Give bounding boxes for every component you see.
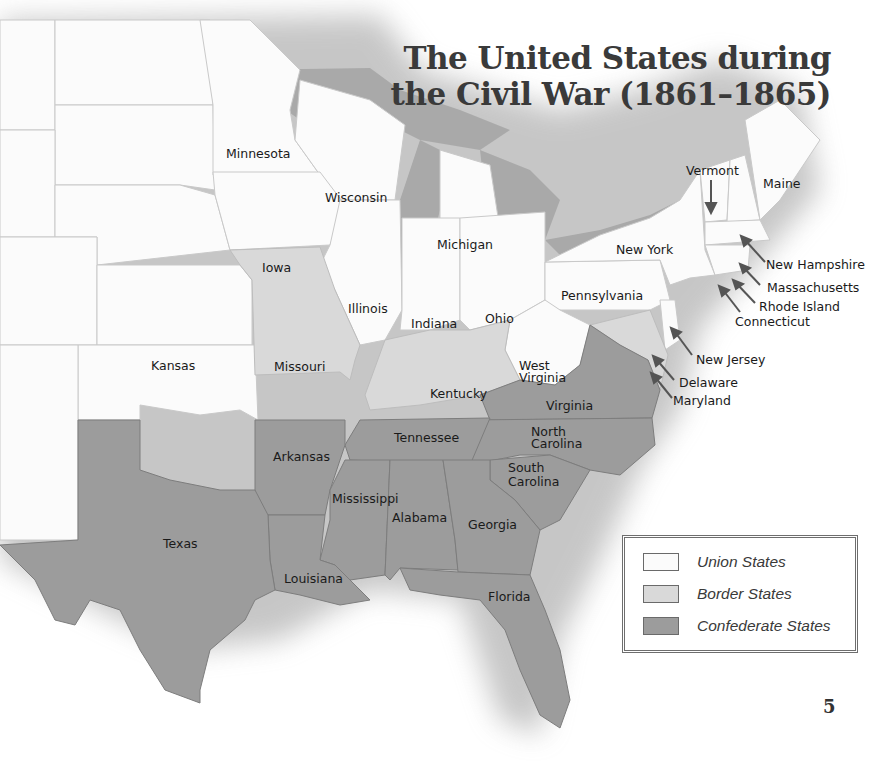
label-florida: Florida [488, 589, 531, 604]
label-indiana: Indiana [411, 316, 457, 331]
label-tennessee: Tennessee [393, 430, 459, 445]
label-maryland: Maryland [673, 393, 731, 408]
label-rhode-island: Rhode Island [759, 299, 840, 314]
label-new-york: New York [616, 242, 674, 257]
map-title-line-2: the Civil War (1861–1865) [391, 76, 831, 112]
label-michigan: Michigan [437, 237, 493, 252]
label-louisiana: Louisiana [284, 571, 343, 586]
label-vermont: Vermont [686, 163, 739, 178]
label-connecticut: Connecticut [735, 314, 810, 329]
state-colorado [0, 237, 97, 345]
union-swatch [643, 553, 679, 571]
label-texas: Texas [162, 536, 198, 551]
label-kansas: Kansas [151, 358, 195, 373]
state-iowa [213, 172, 345, 250]
label-georgia: Georgia [468, 517, 517, 532]
label-new-hampshire: New Hampshire [766, 257, 865, 272]
label-minnesota: Minnesota [226, 146, 291, 161]
label-maine: Maine [763, 176, 801, 191]
state-oklahoma [78, 345, 258, 420]
label-delaware: Delaware [679, 375, 738, 390]
map-title: The United States during the Civil War (… [391, 40, 831, 112]
label-missouri: Missouri [274, 359, 325, 374]
label-north-carolina-2: Carolina [531, 436, 582, 451]
map-title-line-1: The United States during [391, 40, 831, 76]
label-mississippi: Mississippi [332, 491, 399, 506]
label-alabama: Alabama [392, 510, 447, 525]
label-ohio: Ohio [485, 311, 514, 326]
label-iowa: Iowa [262, 260, 291, 275]
legend-label: Union States [697, 553, 786, 571]
border-swatch [643, 585, 679, 603]
state-montana-area [0, 20, 55, 130]
legend-label: Confederate States [697, 617, 831, 635]
state-north-dakota [55, 20, 213, 105]
legend-label: Border States [697, 585, 792, 603]
state-wyoming-area [0, 130, 55, 237]
label-wisconsin: Wisconsin [325, 190, 387, 205]
state-indiana [400, 218, 460, 330]
state-massachusetts [705, 220, 770, 245]
label-arkansas: Arkansas [273, 449, 330, 464]
label-south-carolina-2: Carolina [508, 474, 559, 489]
legend-item-border: Border States [643, 583, 792, 605]
map-legend: Union States Border States Confederate S… [622, 535, 858, 653]
confederate-swatch [643, 617, 679, 635]
label-new-jersey: New Jersey [696, 352, 766, 367]
state-south-dakota [55, 105, 215, 190]
label-south-carolina-1: South [508, 460, 544, 475]
label-west-virginia-2: Virginia [519, 370, 566, 385]
label-pennsylvania: Pennsylvania [561, 288, 643, 303]
state-new-mexico-area [0, 345, 78, 540]
state-kansas [97, 265, 252, 345]
legend-item-union: Union States [643, 551, 786, 573]
page-number: 5 [823, 696, 836, 717]
legend-item-confederate: Confederate States [643, 615, 831, 637]
label-illinois: Illinois [348, 301, 388, 316]
label-massachusetts: Massachusetts [767, 280, 859, 295]
label-virginia: Virginia [546, 398, 593, 413]
label-kentucky: Kentucky [430, 386, 488, 401]
